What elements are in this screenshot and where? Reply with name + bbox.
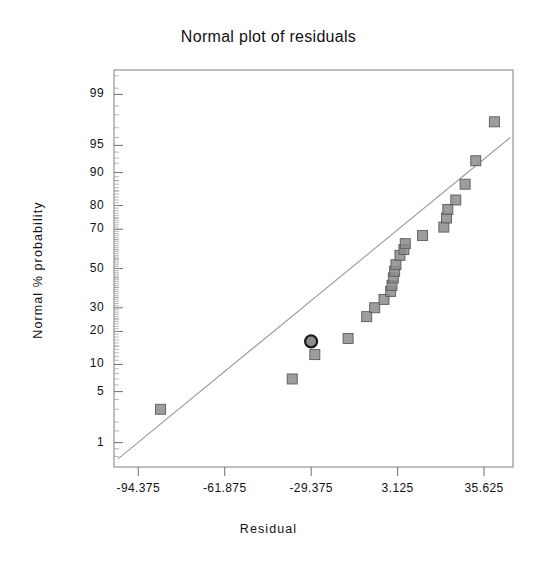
y-tick-label: 80 xyxy=(58,198,104,212)
data-point xyxy=(489,117,499,127)
data-point xyxy=(471,156,481,166)
data-point xyxy=(310,350,320,360)
y-tick-label: 10 xyxy=(58,356,104,370)
y-tick-label: 1 xyxy=(58,435,104,449)
normal-probability-plot: Normal plot of residuals Normal % probab… xyxy=(0,0,537,566)
data-point xyxy=(443,204,453,214)
x-tick-label: 3.125 xyxy=(353,481,443,495)
y-tick-label: 90 xyxy=(58,165,104,179)
plot-frame xyxy=(114,70,513,467)
data-points xyxy=(156,117,500,414)
data-point xyxy=(460,179,470,189)
y-tick-label: 20 xyxy=(58,323,104,337)
data-point-highlighted xyxy=(305,335,317,347)
data-point xyxy=(451,195,461,205)
data-point xyxy=(400,239,410,249)
y-tick-label: 70 xyxy=(58,221,104,235)
y-tick-label: 95 xyxy=(58,137,104,151)
reference-line xyxy=(118,137,510,458)
x-tick-label: -29.375 xyxy=(266,481,356,495)
x-tick-label: -61.875 xyxy=(180,481,270,495)
data-point xyxy=(287,374,297,384)
data-point xyxy=(391,260,401,270)
y-tick-label: 30 xyxy=(58,300,104,314)
x-tick-label: -94.375 xyxy=(93,481,183,495)
y-tick-label: 5 xyxy=(58,384,104,398)
x-tick-label: 35.625 xyxy=(439,481,529,495)
data-point xyxy=(418,231,428,241)
data-point xyxy=(439,222,449,232)
data-point xyxy=(156,404,166,414)
y-tick-label: 50 xyxy=(58,261,104,275)
y-tick-label: 99 xyxy=(58,86,104,100)
data-point xyxy=(343,333,353,343)
data-point xyxy=(370,303,380,313)
